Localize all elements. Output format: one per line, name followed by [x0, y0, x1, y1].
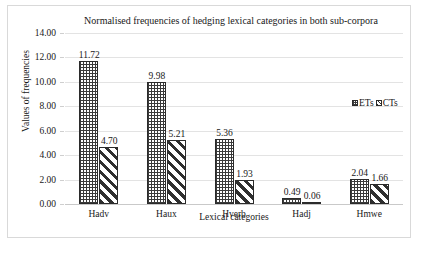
bar-value-label: 1.93 — [234, 169, 256, 179]
legend-swatch-icon — [352, 100, 358, 106]
bar-value-label: 4.70 — [98, 136, 120, 146]
y-tick-mark — [60, 131, 64, 132]
bar-value-label: 11.72 — [78, 50, 100, 60]
bar-value-label: 5.36 — [214, 128, 236, 138]
bar-group: 9.985.21 — [147, 33, 186, 204]
legend-item-ets[interactable]: ETs — [352, 98, 374, 108]
y-tick-label: 8.00 — [16, 101, 56, 111]
bar-value-label: 9.98 — [146, 71, 168, 81]
chart-container: Normalised frequencies of hedging lexica… — [7, 5, 411, 238]
bar-cts-haux[interactable] — [167, 140, 186, 204]
bar-value-label: 0.49 — [281, 187, 303, 197]
bar-ets-haux[interactable] — [147, 82, 166, 204]
bar-group: 0.490.06 — [282, 33, 321, 204]
legend-item-cts[interactable]: CTs — [376, 98, 398, 108]
y-axis-title: Values of frequencies — [21, 21, 31, 161]
y-tick-label: 2.00 — [16, 175, 56, 185]
y-tick-label: 14.00 — [16, 28, 56, 38]
bar-cts-hmwe[interactable] — [370, 184, 389, 204]
bar-value-label: 5.21 — [166, 129, 188, 139]
legend-swatch-icon — [376, 100, 382, 106]
bar-value-label: 2.04 — [349, 168, 371, 178]
y-tick-label: 6.00 — [16, 126, 56, 136]
y-tick-label: 12.00 — [16, 52, 56, 62]
bar-cts-hverb[interactable] — [235, 180, 254, 204]
y-tick-mark — [60, 106, 64, 107]
bar-value-label: 1.66 — [369, 173, 391, 183]
gridline — [65, 204, 403, 205]
bar-ets-hadv[interactable] — [79, 61, 98, 204]
y-tick-label: 10.00 — [16, 77, 56, 87]
chart-title: Normalised frequencies of hedging lexica… — [56, 15, 406, 27]
bar-group: 11.724.70 — [79, 33, 118, 204]
y-tick-mark — [60, 155, 64, 156]
bar-cts-hadj[interactable] — [302, 202, 321, 204]
y-tick-label: 0.00 — [16, 199, 56, 209]
x-axis-title: Lexical categories — [65, 212, 403, 222]
plot-area: 14.0012.0010.008.006.004.002.000.0011.72… — [65, 33, 403, 204]
bar-group: 5.361.93 — [215, 33, 254, 204]
y-tick-label: 4.00 — [16, 150, 56, 160]
chart-legend: ETsCTs — [352, 98, 398, 108]
bar-group: 2.041.66 — [350, 33, 389, 204]
y-tick-mark — [60, 180, 64, 181]
legend-label: CTs — [383, 98, 398, 108]
bar-cts-hadv[interactable] — [99, 147, 118, 204]
bar-ets-hadj[interactable] — [282, 198, 301, 204]
bar-ets-hverb[interactable] — [215, 139, 234, 204]
y-tick-mark — [60, 204, 64, 205]
y-tick-mark — [60, 33, 64, 34]
bar-value-label: 0.06 — [301, 191, 323, 201]
bar-ets-hmwe[interactable] — [350, 179, 369, 204]
y-tick-mark — [60, 82, 64, 83]
legend-label: ETs — [359, 98, 374, 108]
y-tick-mark — [60, 57, 64, 58]
